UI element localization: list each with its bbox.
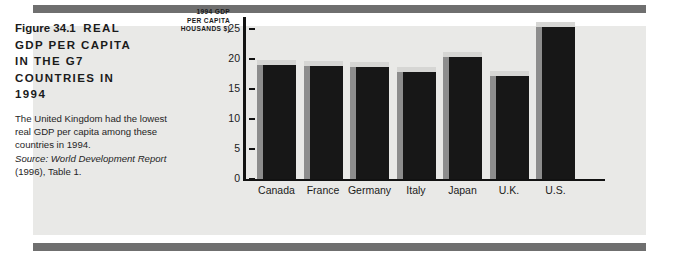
bar-face <box>310 66 343 179</box>
figure-title-line-5: 1994 <box>15 88 46 100</box>
y-tick-label: 15 <box>228 82 240 94</box>
y-axis-caption-line-3: HOUSANDS $) <box>181 25 230 32</box>
figure-page: Figure 34.1 REALGDP PER CAPITAIN THE G7C… <box>0 0 679 253</box>
bar <box>350 62 389 179</box>
figure-title-line-3: IN THE G7 <box>15 55 84 67</box>
y-tick-label: 10 <box>228 112 240 124</box>
y-axis-caption-line-2: PER CAPITA <box>187 17 230 24</box>
bar-face <box>403 72 436 179</box>
bar-face <box>263 65 296 179</box>
bottom-rule <box>33 243 646 251</box>
figure-number: Figure 34.1 <box>15 22 76 34</box>
bar <box>490 71 529 179</box>
bar-chart: 1994 GDP PER CAPITA HOUSANDS $) 25201510… <box>180 0 613 209</box>
bar-face <box>496 76 529 179</box>
figure-title-line-1: REAL <box>83 22 120 34</box>
y-tick-label: 0 <box>234 172 240 184</box>
bar <box>536 22 575 179</box>
y-axis-line <box>243 17 246 179</box>
y-tick-label: 20 <box>228 52 240 64</box>
bar-face <box>542 27 575 179</box>
figure-description: The United Kingdom had the lowest real G… <box>15 112 177 152</box>
y-tick-mark <box>249 148 255 150</box>
bar <box>304 61 343 179</box>
source-title: World Development Report <box>51 153 167 164</box>
y-tick-label: 25 <box>228 22 240 34</box>
y-tick-mark <box>249 118 255 120</box>
y-axis-caption: 1994 GDP PER CAPITA HOUSANDS $) <box>138 8 230 34</box>
y-tick-label: 5 <box>234 142 240 154</box>
y-tick-mark <box>249 28 255 30</box>
source-label: Source: <box>15 153 48 164</box>
x-axis-label: U.S. <box>519 184 593 197</box>
figure-caption: Figure 34.1 REALGDP PER CAPITAIN THE G7C… <box>15 20 177 179</box>
bar-face <box>356 67 389 179</box>
source-detail: (1996), Table 1. <box>15 166 82 177</box>
figure-source: Source: World Development Report (1996),… <box>15 152 177 179</box>
y-tick-mark <box>249 88 255 90</box>
y-tick-mark <box>249 58 255 60</box>
figure-title-line-4: COUNTRIES IN <box>15 72 114 84</box>
bar <box>443 52 482 179</box>
bar <box>397 67 436 179</box>
x-axis-line <box>243 179 605 181</box>
bar <box>257 60 296 179</box>
y-tick-mark <box>249 178 255 180</box>
y-axis-caption-line-1: 1994 GDP <box>196 8 230 15</box>
figure-title-line-2: GDP PER CAPITA <box>15 39 131 51</box>
bar-face <box>449 57 482 179</box>
plot-area: 2520151050 CanadaFranceGermanyItalyJapan… <box>246 29 596 179</box>
